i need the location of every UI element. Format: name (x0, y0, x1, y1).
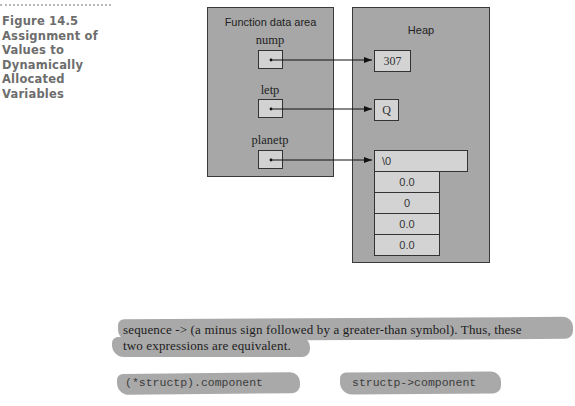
code-expr-arrow: structp->component (352, 376, 476, 389)
code-expr-dot: (*structp).component (125, 376, 263, 389)
body-text-line1: sequence -> (a minus sign followed by a … (123, 322, 522, 338)
body-text-line2: two expressions are equivalent. (123, 338, 291, 354)
